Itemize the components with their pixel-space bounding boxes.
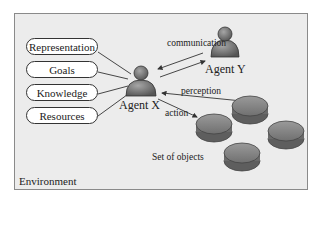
objects-label: Set of objects bbox=[152, 152, 204, 162]
connector-knowledge bbox=[98, 86, 128, 94]
object-disc bbox=[268, 121, 304, 149]
communication-arrow-to-y bbox=[160, 61, 205, 77]
objects-group bbox=[196, 96, 304, 171]
agent-x-label: Agent X bbox=[119, 98, 160, 113]
agent-x-icon bbox=[126, 66, 156, 96]
communication-label: communication bbox=[167, 38, 226, 48]
object-disc bbox=[232, 96, 268, 124]
communication-arrow-to-x bbox=[158, 53, 203, 69]
environment-label: Environment bbox=[19, 175, 76, 187]
attribute-pill-goals: Goals bbox=[26, 61, 98, 78]
connector-goals bbox=[98, 72, 128, 79]
object-disc bbox=[196, 114, 232, 142]
action-label: action bbox=[165, 108, 188, 118]
object-disc bbox=[224, 143, 260, 171]
connector-representation bbox=[98, 52, 131, 74]
attribute-pill-representation: Representation bbox=[26, 38, 98, 55]
communication-arrows bbox=[158, 53, 205, 77]
perception-label: perception bbox=[181, 86, 221, 96]
attribute-pill-resources: Resources bbox=[26, 107, 98, 124]
agent-y-label: Agent Y bbox=[205, 62, 246, 77]
attribute-pill-knowledge: Knowledge bbox=[26, 84, 98, 101]
